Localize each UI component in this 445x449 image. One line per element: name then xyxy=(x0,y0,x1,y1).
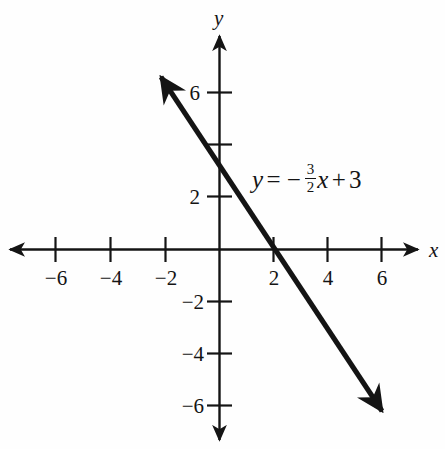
y-axis-label: y xyxy=(214,8,223,29)
x-axis-label: x xyxy=(429,240,438,261)
fraction-numerator: 3 xyxy=(306,162,316,177)
y-tick-label-2: 2 xyxy=(190,187,201,208)
graph-figure: y x −6 −4 −2 2 4 6 6 2 −2 −4 −6 y = − 3 … xyxy=(0,0,445,449)
y-tick-label--6: −6 xyxy=(182,396,204,417)
y-tick-label--4: −4 xyxy=(182,344,204,365)
equation-variable-x: x xyxy=(317,166,328,194)
x-tick-label--2: −2 xyxy=(155,268,177,289)
equation-fraction-three-halves: 3 2 xyxy=(305,162,316,195)
y-tick-label--2: −2 xyxy=(182,292,204,313)
x-tick-label-4: 4 xyxy=(323,268,334,289)
fraction-denominator: 2 xyxy=(306,180,316,195)
equation-constant: 3 xyxy=(349,166,362,194)
equation-equals-sign: = xyxy=(266,166,280,194)
equation-label: y = − 3 2 x + 3 xyxy=(252,163,362,196)
equation-lhs: y xyxy=(252,166,263,194)
x-tick-label-2: 2 xyxy=(269,268,280,289)
equation-minus-sign: − xyxy=(287,166,301,194)
x-tick-label--4: −4 xyxy=(100,268,122,289)
equation-plus-sign: + xyxy=(332,166,346,194)
coordinate-plane xyxy=(0,0,445,449)
y-tick-label-6: 6 xyxy=(190,83,201,104)
x-tick-label--6: −6 xyxy=(45,268,67,289)
x-tick-label-6: 6 xyxy=(377,268,388,289)
